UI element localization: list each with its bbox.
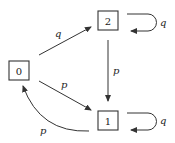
self-loop-1: q xyxy=(127,113,166,130)
edge-0-to-2: q xyxy=(39,27,91,55)
edge-1-to-0: p xyxy=(23,86,89,136)
node-0-label: 0 xyxy=(16,66,22,77)
edge-2-to-1: p xyxy=(108,40,120,101)
edge-1-to-0-label: p xyxy=(40,125,47,136)
edge-0-to-1: p xyxy=(39,79,91,110)
self-loop-2: q xyxy=(127,14,166,31)
node-1-label: 1 xyxy=(105,116,111,127)
state-diagram: 0 2 1 q p p p q q xyxy=(0,0,175,143)
edge-0-to-1-label: p xyxy=(61,79,68,90)
arrow-1-to-0 xyxy=(23,86,89,131)
arrow-self-loop-2 xyxy=(127,14,156,31)
arrow-self-loop-1 xyxy=(127,113,157,130)
edge-0-to-2-label: q xyxy=(55,28,61,39)
edge-2-to-1-label: p xyxy=(113,65,120,76)
node-0: 0 xyxy=(9,61,29,80)
node-2-label: 2 xyxy=(105,16,111,27)
self-loop-1-label: q xyxy=(160,115,166,126)
self-loop-2-label: q xyxy=(160,17,166,28)
node-1: 1 xyxy=(98,111,118,130)
arrow-0-to-2 xyxy=(39,27,91,55)
node-2: 2 xyxy=(98,11,118,30)
